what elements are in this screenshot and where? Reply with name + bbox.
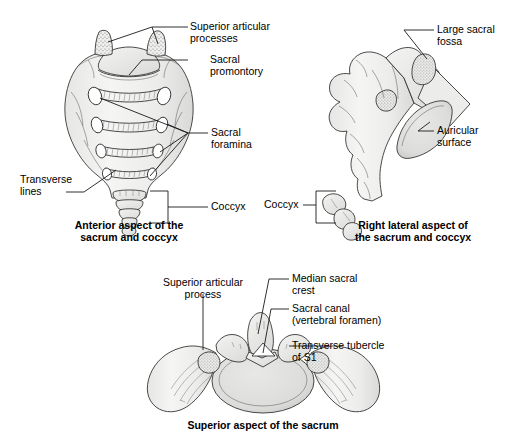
label-auricular-surface: Auricularsurface [437,125,478,148]
label-transverse-tubercle-of-s1: Transverse tubercleof S1 [292,340,384,363]
label-line-1: Sacral canal [292,302,350,314]
label-median-sacral-crest: Median sacralcrest [292,273,357,296]
label-line-2: processes [190,32,238,44]
label-superior-articular-processes: Superior articularprocesses [190,21,270,44]
label-line-1: Transverse tubercle [292,339,384,351]
label-sacral-promontory: Sacralpromontory [210,54,263,77]
label-line-2: fossa [437,35,462,47]
label-line-2: (vertebral foramen) [292,314,381,326]
caption-superior: Superior aspect of the sacrum [133,419,393,431]
label-line-2: foramina [211,138,252,150]
label-line-2: of S1 [292,351,317,363]
label-coccyx-anterior: Coccyx [211,201,245,213]
caption-line-2: the sacrum and coccyx [355,231,471,243]
caption-line-1: Anterior aspect of the [75,219,184,231]
label-line-1: Sacral [211,126,241,138]
label-line-2: surface [437,136,471,148]
label-line-2: process [185,288,222,300]
caption-anterior: Anterior aspect of thesacrum and coccyx [36,219,222,243]
label-line-1: Transverse [20,173,72,185]
label-line-1: Superior articular [190,20,270,32]
anterior-sacrum-drawing [65,27,208,236]
label-line-1: Large sacral [437,23,495,35]
caption-line-1: Superior aspect of the sacrum [187,419,338,431]
label-line-1: Sacral [210,53,240,65]
label-sacral-canal: Sacral canal(vertebral foramen) [292,303,381,326]
label-large-sacral-fossa: Large sacralfossa [437,24,495,47]
label-superior-articular-process: Superior articularprocess [150,277,256,300]
label-sacral-foramina: Sacralforamina [211,127,252,150]
anatomy-figure: Superior articularprocesses Sacralpromon… [0,0,527,441]
label-line-1: Median sacral [292,272,357,284]
label-line-1: Superior articular [163,276,243,288]
caption-right-lateral: Right lateral aspect ofthe sacrum and co… [322,219,504,243]
label-line-2: lines [20,185,42,197]
label-coccyx-lateral: Coccyx [264,199,298,211]
label-line-2: crest [292,284,315,296]
caption-line-2: sacrum and coccyx [80,231,177,243]
label-line-2: promontory [210,65,263,77]
label-transverse-lines: Transverselines [20,174,72,197]
label-line-1: Auricular [437,124,478,136]
caption-line-1: Right lateral aspect of [358,219,468,231]
